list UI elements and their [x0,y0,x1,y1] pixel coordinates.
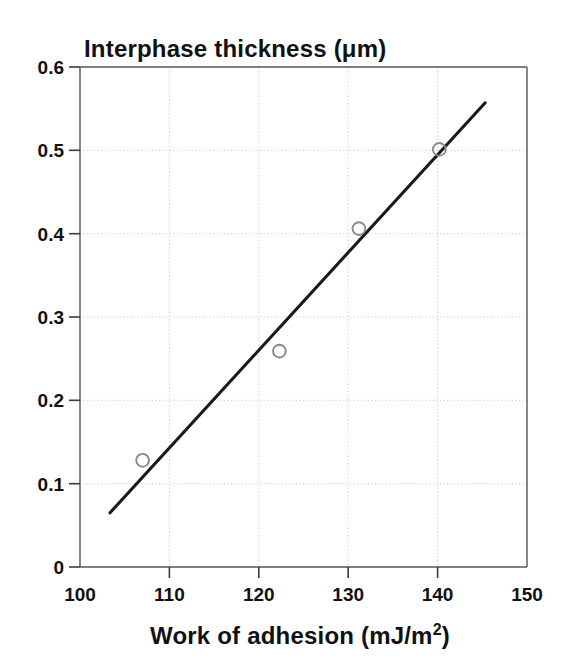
xtick-label-130: 130 [332,584,364,605]
ytick-label-0: 0 [53,557,64,578]
chart-figure: 0.6 0.5 0.4 0.3 0.2 0.1 0 100 110 120 13… [0,0,568,667]
ytick-label-0.6: 0.6 [38,57,64,78]
xtick-label-100: 100 [64,584,96,605]
xtick-label-140: 140 [422,584,454,605]
ytick-label-0.4: 0.4 [38,224,65,245]
ytick-label-0.5: 0.5 [38,140,65,161]
x-axis-label: Work of adhesion (mJ/m2) [150,621,450,649]
x-axis-label-tail: ) [442,622,450,649]
scatter-plot-svg: 0.6 0.5 0.4 0.3 0.2 0.1 0 100 110 120 13… [0,0,568,667]
chart-title: Interphase thickness (μm) [84,35,386,62]
ytick-label-0.2: 0.2 [38,390,64,411]
x-axis-label-base: Work of adhesion (mJ/m [150,622,433,649]
xtick-label-120: 120 [243,584,275,605]
ytick-label-0.1: 0.1 [38,474,65,495]
xtick-label-150: 150 [511,584,543,605]
xtick-label-110: 110 [154,584,185,605]
ytick-label-0.3: 0.3 [38,307,64,328]
x-axis-label-superscript: 2 [433,621,442,638]
